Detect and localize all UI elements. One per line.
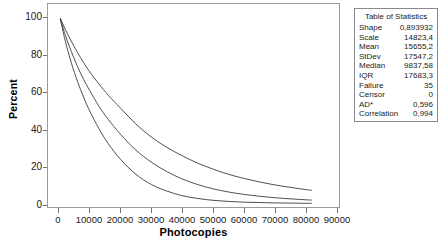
x-tick-mark	[275, 208, 276, 213]
statistics-row-key: StDev	[359, 52, 381, 62]
x-tick-mark	[306, 208, 307, 213]
x-tick-label: 0	[55, 215, 60, 225]
x-tick-label: 90000	[324, 215, 350, 225]
statistics-row: Correlation0,994	[355, 109, 437, 119]
chart-root: Percent 020406080100 0100002000030000400…	[0, 0, 442, 245]
x-tick-mark	[120, 208, 121, 213]
statistics-row-key: Shape	[359, 23, 382, 33]
statistics-row-value: 0,893932	[400, 23, 433, 33]
curves-svg	[48, 4, 339, 207]
x-tick-mark	[244, 208, 245, 213]
curve-line	[60, 19, 311, 200]
x-tick-label: 60000	[231, 215, 257, 225]
y-tick-label: 80	[4, 50, 42, 60]
statistics-row: IQR17683,3	[355, 71, 437, 81]
x-tick-mark	[151, 208, 152, 213]
curve-line	[60, 20, 311, 204]
statistics-row-key: IQR	[359, 71, 373, 81]
statistics-row-key: AD*	[359, 100, 373, 110]
statistics-row-value: 15655,2	[404, 42, 433, 52]
y-tick-label: 40	[4, 125, 42, 135]
statistics-row-value: 0,596	[413, 100, 433, 110]
x-tick-label: 20000	[107, 215, 133, 225]
x-tick-label: 30000	[138, 215, 164, 225]
statistics-table: Table of Statistics Shape0,893932Scale14…	[354, 8, 438, 122]
statistics-row-value: 17683,3	[404, 71, 433, 81]
x-tick-label: 50000	[200, 215, 226, 225]
statistics-row: Mean15655,2	[355, 42, 437, 52]
x-tick-mark	[213, 208, 214, 213]
x-tick-label: 80000	[293, 215, 319, 225]
plot-area	[47, 3, 340, 208]
x-tick-mark	[182, 208, 183, 213]
y-tick-label: 20	[4, 162, 42, 172]
y-tick-label: 60	[4, 87, 42, 97]
statistics-row-key: Failure	[359, 81, 383, 91]
statistics-row-value: 9837,58	[404, 61, 433, 71]
statistics-row: Shape0,893932	[355, 23, 437, 33]
statistics-row: StDev17547,2	[355, 52, 437, 62]
x-tick-label: 40000	[169, 215, 195, 225]
statistics-row-key: Correlation	[359, 109, 398, 119]
x-axis-title: Photocopies	[47, 226, 340, 238]
statistics-row-key: Censor	[359, 90, 385, 100]
statistics-row: Scale14823,4	[355, 33, 437, 43]
statistics-row-value: 0,994	[413, 109, 433, 119]
x-tick-mark	[89, 208, 90, 213]
statistics-row: AD*0,596	[355, 100, 437, 110]
statistics-row-key: Median	[359, 61, 385, 71]
statistics-row-value: 14823,4	[404, 33, 433, 43]
x-tick-mark	[58, 208, 59, 213]
statistics-row: Censor0	[355, 90, 437, 100]
y-tick-label: 100	[4, 12, 42, 22]
statistics-table-rows: Shape0,893932Scale14823,4Mean15655,2StDe…	[355, 23, 437, 119]
statistics-row-value: 0	[429, 90, 433, 100]
x-tick-mark	[337, 208, 338, 213]
statistics-row-value: 17547,2	[404, 52, 433, 62]
x-tick-label: 10000	[76, 215, 102, 225]
statistics-row-key: Mean	[359, 42, 379, 52]
statistics-row: Failure35	[355, 81, 437, 91]
statistics-row-value: 35	[424, 81, 433, 91]
statistics-table-title: Table of Statistics	[355, 11, 437, 23]
statistics-row: Median9837,58	[355, 61, 437, 71]
x-tick-label: 70000	[262, 215, 288, 225]
statistics-row-key: Scale	[359, 33, 379, 43]
